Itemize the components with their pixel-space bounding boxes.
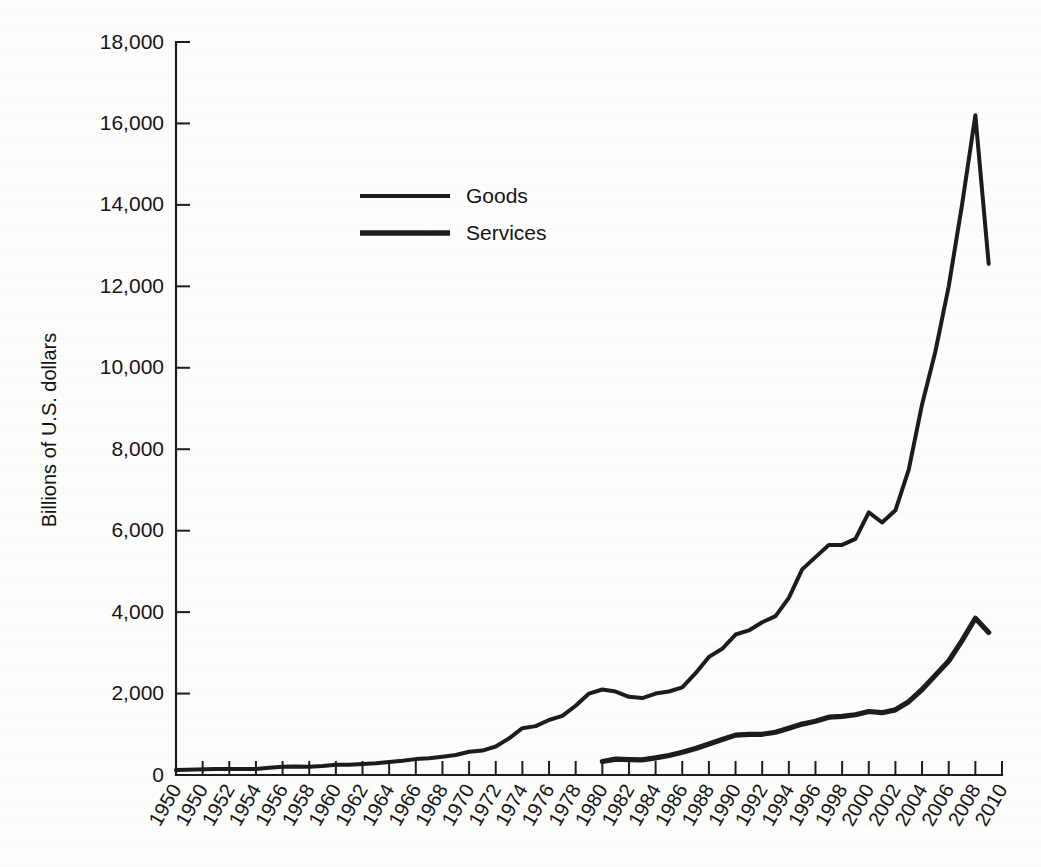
y-axis-tick-label-group: 02,0004,0006,0008,00010,00012,00014,0001… bbox=[100, 30, 164, 786]
y-axis-tick-label: 14,000 bbox=[100, 192, 164, 215]
legend-label-services: Services bbox=[466, 221, 547, 244]
y-axis-tick-label: 16,000 bbox=[100, 111, 164, 134]
line-chart: 02,0004,0006,0008,00010,00012,00014,0001… bbox=[0, 0, 1041, 867]
y-axis-tick-label: 2,000 bbox=[111, 681, 164, 704]
chart-figure: 02,0004,0006,0008,00010,00012,00014,0001… bbox=[0, 0, 1041, 867]
y-axis-tick-label: 18,000 bbox=[100, 30, 164, 53]
y-axis-tick-label: 10,000 bbox=[100, 355, 164, 378]
series-line-services bbox=[602, 618, 988, 761]
axis-spines bbox=[176, 42, 1002, 775]
y-axis-tick-label: 0 bbox=[152, 763, 164, 786]
y-axis-tick-group bbox=[176, 42, 190, 775]
y-axis-title: Billions of U.S. dollars bbox=[38, 333, 60, 528]
y-axis-tick-label: 8,000 bbox=[111, 437, 164, 460]
data-series-group bbox=[176, 115, 989, 770]
y-axis-tick-label: 4,000 bbox=[111, 600, 164, 623]
legend-label-goods: Goods bbox=[466, 184, 528, 207]
chart-legend: GoodsServices bbox=[360, 184, 547, 244]
y-axis-tick-label: 6,000 bbox=[111, 518, 164, 541]
x-axis-tick-label-group: 1950195019521954195619581960196219641966… bbox=[144, 780, 1011, 830]
y-axis-tick-label: 12,000 bbox=[100, 274, 164, 297]
series-line-goods bbox=[176, 115, 989, 770]
